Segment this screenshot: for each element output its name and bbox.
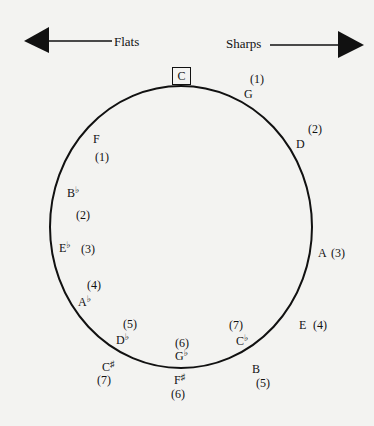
flat-count-b-flat: (2) [76,209,90,221]
sharp-key-g: G [244,88,253,100]
sharp-count-c-sharp: (7) [97,374,111,386]
flat-key-b-flat: B♭ [67,187,79,200]
sharp-count-f-sharp: (6) [171,388,185,400]
flats-label: Flats [114,35,139,48]
flat-key-c-flat-letter: C [236,334,244,348]
sharp-count-d: (2) [308,123,322,135]
flat-key-a-flat-letter: A [78,295,87,309]
key-c-label: C [177,69,185,83]
flat-accidental-icon: ♭ [125,332,129,342]
sharp-count-a: (3) [331,247,345,259]
flat-accidental-icon: ♭ [87,294,91,304]
key-c-box: C [172,67,191,85]
flat-key-b-flat-letter: B [67,186,75,200]
sharp-key-d: D [296,138,305,150]
sharp-accidental-icon: ♯ [110,359,115,369]
flat-accidental-icon: ♭ [75,185,79,195]
sharp-count-e: (4) [313,319,327,331]
flat-accidental-icon: ♭ [184,348,188,358]
flat-key-a-flat: A♭ [78,296,91,309]
flat-count-e-flat: (3) [81,243,95,255]
flat-accidental-icon: ♭ [66,240,70,250]
sharp-key-f-sharp: F♯ [174,374,185,387]
sharp-count-g: (1) [250,73,264,85]
flat-key-e-flat: E♭ [59,242,71,255]
flats-arrow-icon [24,27,112,53]
sharp-accidental-icon: ♯ [181,372,186,382]
flat-key-d-flat-letter: D [116,333,125,347]
sharp-key-f-sharp-letter: F [174,373,181,387]
flat-count-a-flat: (4) [87,279,101,291]
sharps-label: Sharps [226,37,261,50]
flat-accidental-icon: ♭ [244,333,248,343]
sharps-arrow-icon [270,31,364,58]
flat-key-c-flat: C♭ [236,335,248,348]
flat-count-d-flat: (5) [123,318,137,330]
flat-key-g-flat: G♭ [175,350,188,363]
sharp-count-b: (5) [256,377,270,389]
flat-count-f: (1) [95,151,109,163]
flat-key-d-flat: D♭ [116,334,129,347]
sharp-key-b: B [252,363,260,375]
circle-of-fifths-ring [50,86,312,368]
flat-count-c-flat: (7) [229,319,243,331]
sharp-key-e: E [299,319,306,331]
sharp-key-c-sharp-letter: C [102,360,110,374]
sharp-key-a: A [318,247,327,259]
flat-key-g-flat-letter: G [175,349,184,363]
flat-key-f: F [93,133,100,145]
